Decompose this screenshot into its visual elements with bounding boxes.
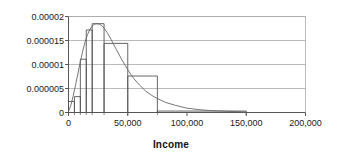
x-axis-title: Income — [0, 139, 342, 150]
x-tick-label: 100,000 — [171, 118, 204, 128]
x-tick-label: 150,000 — [230, 118, 263, 128]
x-tick-label: 50,000 — [114, 118, 142, 128]
x-tick-label: 200,000 — [289, 118, 322, 128]
income-density-chart: 00.0000050.000010.0000150.00002 050,0001… — [0, 0, 342, 163]
x-tick-label: 0 — [66, 118, 71, 128]
